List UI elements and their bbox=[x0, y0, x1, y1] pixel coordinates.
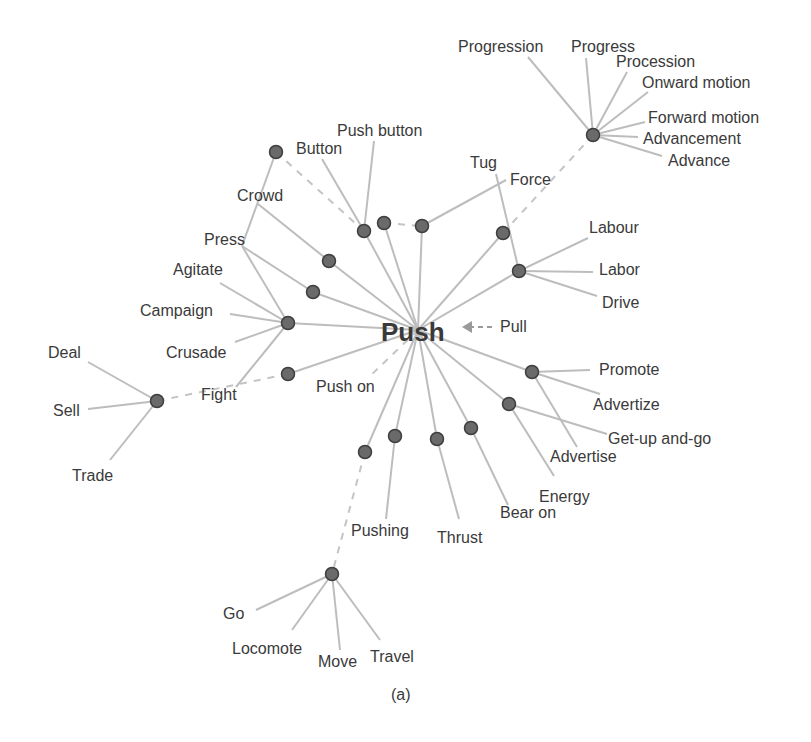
graph-node[interactable] bbox=[587, 129, 600, 142]
word-label[interactable]: Energy bbox=[539, 488, 590, 505]
word-label[interactable]: Push button bbox=[337, 122, 422, 139]
graph-node[interactable] bbox=[389, 430, 402, 443]
edge bbox=[258, 204, 329, 261]
graph-node[interactable] bbox=[358, 225, 371, 238]
word-label[interactable]: Advance bbox=[668, 152, 730, 169]
edge bbox=[110, 401, 157, 460]
word-label[interactable]: Button bbox=[296, 140, 342, 157]
word-graph-diagram: ProgressionProgressProcessionOnward moti… bbox=[0, 0, 811, 742]
graph-node[interactable] bbox=[497, 227, 510, 240]
graph-node[interactable] bbox=[270, 146, 283, 159]
edge bbox=[88, 362, 157, 401]
edge bbox=[386, 436, 395, 519]
word-label[interactable]: Forward motion bbox=[648, 109, 759, 126]
word-label[interactable]: Fight bbox=[201, 386, 237, 403]
edge bbox=[528, 57, 593, 135]
center-word-label[interactable]: Push bbox=[381, 317, 445, 347]
edge bbox=[242, 246, 288, 323]
word-label[interactable]: Travel bbox=[370, 648, 414, 665]
word-label[interactable]: Tug bbox=[470, 154, 497, 171]
arrowhead-icon bbox=[462, 321, 472, 333]
edge bbox=[471, 428, 508, 505]
edge bbox=[422, 180, 506, 226]
edge bbox=[88, 401, 157, 409]
word-label[interactable]: Push on bbox=[316, 378, 375, 395]
graph-node[interactable] bbox=[513, 265, 526, 278]
word-label[interactable]: Trade bbox=[72, 467, 113, 484]
graph-node[interactable] bbox=[416, 220, 429, 233]
word-label[interactable]: Thrust bbox=[437, 529, 483, 546]
word-label[interactable]: Go bbox=[223, 605, 244, 622]
word-label[interactable]: Press bbox=[204, 231, 245, 248]
edge bbox=[364, 141, 374, 231]
word-label[interactable]: Advancement bbox=[643, 130, 741, 147]
graph-node[interactable] bbox=[465, 422, 478, 435]
word-label[interactable]: Bear on bbox=[500, 504, 556, 521]
graph-node[interactable] bbox=[431, 433, 444, 446]
edge bbox=[532, 370, 590, 372]
graph-node[interactable] bbox=[526, 366, 539, 379]
edge bbox=[256, 574, 332, 610]
word-label[interactable]: Force bbox=[510, 171, 551, 188]
edge bbox=[322, 159, 364, 231]
edge bbox=[586, 58, 593, 135]
edge bbox=[418, 226, 422, 330]
graph-node[interactable] bbox=[503, 398, 516, 411]
word-label[interactable]: Labour bbox=[589, 219, 639, 236]
edge bbox=[593, 72, 627, 135]
word-label[interactable]: Sell bbox=[53, 402, 80, 419]
antonym-label[interactable]: Pull bbox=[500, 318, 527, 335]
graph-node[interactable] bbox=[151, 395, 164, 408]
word-label[interactable]: Locomote bbox=[232, 640, 302, 657]
graph-node[interactable] bbox=[282, 317, 295, 330]
edge bbox=[519, 238, 588, 271]
word-label[interactable]: Agitate bbox=[173, 261, 223, 278]
word-label[interactable]: Procession bbox=[616, 53, 695, 70]
graph-node[interactable] bbox=[323, 255, 336, 268]
word-label[interactable]: Pushing bbox=[351, 522, 409, 539]
word-label[interactable]: Labor bbox=[599, 261, 641, 278]
word-label[interactable]: Move bbox=[318, 653, 357, 670]
edge bbox=[519, 271, 597, 296]
edge bbox=[496, 174, 519, 271]
word-label[interactable]: Campaign bbox=[140, 302, 213, 319]
word-label[interactable]: Crusade bbox=[166, 344, 227, 361]
graph-node[interactable] bbox=[282, 368, 295, 381]
word-label[interactable]: Drive bbox=[602, 294, 639, 311]
word-label[interactable]: Crowd bbox=[237, 187, 283, 204]
figure-caption: (a) bbox=[391, 686, 411, 703]
antonym-arrow-icon bbox=[462, 321, 492, 333]
word-label[interactable]: Deal bbox=[48, 344, 81, 361]
word-label[interactable]: Progression bbox=[458, 38, 543, 55]
edge bbox=[437, 439, 459, 519]
word-label[interactable]: Advertize bbox=[593, 396, 660, 413]
word-label[interactable]: Onward motion bbox=[642, 74, 751, 91]
edge bbox=[418, 233, 503, 330]
dashed-edge bbox=[276, 152, 364, 231]
word-label[interactable]: Get-up and-go bbox=[608, 430, 711, 447]
edge bbox=[242, 246, 313, 292]
dashed-edge bbox=[332, 452, 365, 574]
graph-node[interactable] bbox=[307, 286, 320, 299]
word-label[interactable]: Promote bbox=[599, 361, 660, 378]
graph-node[interactable] bbox=[326, 568, 339, 581]
edge bbox=[332, 574, 340, 650]
edge bbox=[332, 574, 380, 640]
word-label-layer: ProgressionProgressProcessionOnward moti… bbox=[48, 38, 759, 670]
edge bbox=[519, 271, 593, 272]
edge bbox=[532, 372, 577, 447]
graph-node[interactable] bbox=[359, 446, 372, 459]
graph-node[interactable] bbox=[378, 217, 391, 230]
word-label[interactable]: Advertise bbox=[550, 448, 617, 465]
